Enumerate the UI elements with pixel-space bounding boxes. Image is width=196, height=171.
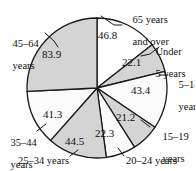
pie-value-45-64: 83.9 [42, 49, 61, 60]
pie-label-65-and-over-line1: 65 years [133, 14, 168, 25]
pie-label-45-64-line1: 45–64 [13, 38, 39, 49]
pie-label-35-44-line1: 35–44 [11, 137, 37, 148]
pie-value-15-19: 21.2 [116, 112, 135, 123]
pie-chart: 65 years and over Under 5 years 5–14 yea… [0, 0, 195, 171]
pie-label-45-64: 45–64 years [2, 27, 46, 82]
pie-value-65-and-over: 46.8 [98, 30, 117, 41]
pie-label-35-44: 35–44 years [0, 126, 40, 171]
pie-value-under-5: 22.1 [122, 57, 141, 68]
pie-label-45-64-line2: years [13, 60, 35, 71]
pie-value-25-34: 44.5 [65, 136, 84, 147]
pie-label-5-14-line1: 5–14 [179, 79, 196, 90]
pie-label-20-24: 20–24 years [126, 155, 194, 166]
pie-label-35-44-line2: years [11, 159, 33, 170]
pie-label-5-14: 5–14 years [168, 68, 195, 123]
pie-label-5-14-line2: years [179, 101, 196, 112]
pie-label-under-5-line1: Under [156, 46, 182, 57]
pie-value-20-24: 22.3 [95, 128, 114, 139]
pie-value-35-44: 41.3 [43, 109, 62, 120]
pie-label-15-19-line1: 15–19 [163, 131, 189, 142]
pie-value-5-14: 43.4 [131, 85, 150, 96]
